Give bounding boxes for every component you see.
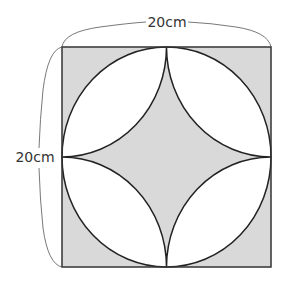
top-dimension-label: 20cm: [147, 14, 186, 30]
left-dimension-label: 20cm: [15, 149, 54, 165]
geometry-diagram: 20cm 20cm: [0, 0, 289, 283]
